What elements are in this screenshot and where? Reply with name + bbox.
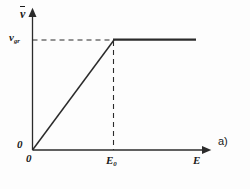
- x-axis-label: E: [193, 155, 200, 166]
- curve-linear-segment: [33, 40, 115, 150]
- threshold-field-label: E0: [106, 155, 117, 166]
- saturation-value-subscript: gr: [14, 37, 20, 44]
- threshold-field-subscript: 0: [113, 160, 116, 167]
- y-axis-label: v: [20, 6, 25, 20]
- origin-label-y: 0: [17, 139, 23, 150]
- saturation-value-label: vgr: [9, 32, 20, 43]
- y-axis-label-text: v: [20, 6, 25, 20]
- plot-canvas: [0, 0, 250, 189]
- figure-panel-a: v vgr 0 0 E0 E a): [0, 0, 250, 189]
- panel-label: a): [218, 136, 228, 147]
- origin-label-x: 0: [26, 153, 32, 164]
